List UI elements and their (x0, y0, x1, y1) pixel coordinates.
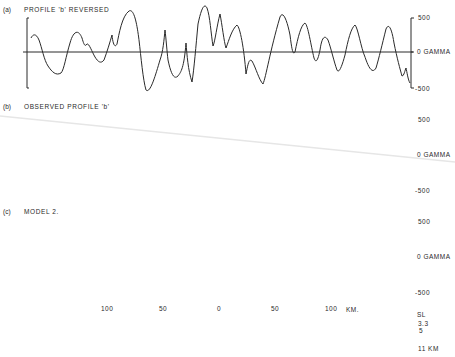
panel-b-letter: (b) (3, 104, 11, 111)
panel-b-y-zero: 0 GAMMA (417, 152, 450, 159)
depth-5-label: 5 (419, 328, 423, 335)
depth-sl-label: SL (417, 312, 426, 319)
panel-a-y-top: 500 (418, 15, 430, 22)
panel-a-y-bottom: -500 (415, 86, 430, 93)
right-axis-a (411, 18, 414, 88)
panel-a-y-zero: 0 GAMMA (417, 49, 450, 56)
depth-11km-label: 11 KM (418, 346, 439, 353)
km-unit-label: KM. (346, 307, 359, 314)
panel-b-y-top: 500 (418, 117, 430, 124)
scan-artifact (0, 116, 455, 162)
km-tick-50-right: 50 (271, 306, 279, 313)
km-tick-0: 0 (217, 306, 221, 313)
profile-a-curve (31, 6, 410, 91)
panel-c-y-bottom: -500 (415, 290, 430, 297)
panel-a-title: PROFILE 'b' REVERSED (24, 7, 109, 14)
km-tick-50-left: 50 (159, 306, 167, 313)
panel-c-title: MODEL 2. (24, 209, 59, 216)
panel-a-letter: (a) (3, 7, 11, 14)
km-tick-100-left: 100 (101, 306, 113, 313)
panel-c-letter: (c) (3, 209, 11, 216)
panel-a (23, 6, 414, 91)
panel-b-y-bottom: -500 (415, 188, 430, 195)
left-scale-bracket-a (27, 18, 29, 88)
km-tick-100-right: 100 (325, 306, 337, 313)
panel-c-y-top: 500 (418, 219, 430, 226)
panel-b-title: OBSERVED PROFILE 'b' (24, 104, 110, 111)
figure-canvas (0, 0, 455, 357)
panel-c-y-zero: 0 GAMMA (417, 254, 450, 261)
